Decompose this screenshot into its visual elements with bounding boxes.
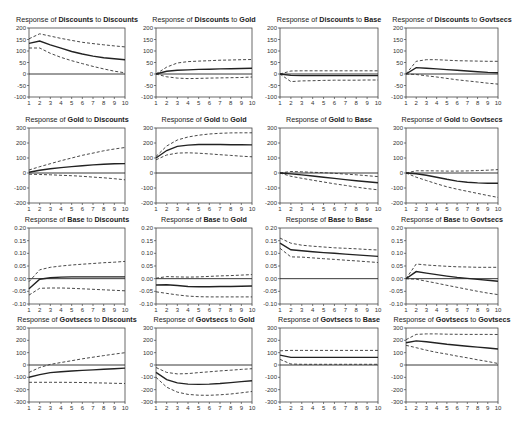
- x-tick-label: 7: [344, 100, 348, 106]
- upper-confidence-band: [406, 334, 498, 340]
- y-tick-label: 0.10: [391, 250, 403, 256]
- panel-title: Response of Base to Govtsecs: [401, 215, 503, 224]
- title-prefix: Response of: [401, 115, 443, 124]
- y-tick-label: 200: [16, 140, 27, 146]
- x-tick-label: 3: [176, 100, 180, 106]
- y-tick-label: 0.00: [141, 276, 153, 282]
- x-tick-label: 9: [113, 307, 117, 313]
- x-tick-label: 5: [70, 405, 74, 411]
- x-tick-label: 5: [445, 307, 449, 313]
- x-tick-label: 4: [186, 206, 190, 212]
- x-tick-label: 7: [218, 206, 222, 212]
- title-mid: to: [220, 115, 230, 124]
- impulse-response-line: [29, 41, 125, 60]
- x-tick-label: 6: [208, 307, 212, 313]
- plot-frame: [406, 128, 498, 203]
- title-prefix: Response of: [161, 215, 203, 224]
- x-tick-label: 2: [38, 405, 42, 411]
- response-variable: Gold: [204, 115, 220, 124]
- x-tick-label: 4: [186, 100, 190, 106]
- lower-confidence-band: [156, 153, 252, 160]
- y-tick-label: -0.05: [12, 288, 26, 294]
- y-tick-label: -0.10: [263, 301, 277, 307]
- y-tick-label: 50: [146, 60, 153, 66]
- x-tick-label: 9: [113, 100, 117, 106]
- lower-confidence-band: [29, 288, 125, 295]
- irf-panel-govtsecs-to-base: Response of Govtsecs to Base3002001000-1…: [265, 315, 382, 411]
- response-variable: Govtsecs: [60, 315, 92, 324]
- impulse-response-line: [156, 285, 252, 287]
- y-tick-label: 0: [23, 71, 27, 77]
- title-mid: to: [354, 15, 364, 24]
- x-tick-label: 5: [322, 206, 326, 212]
- y-tick-label: 200: [393, 25, 404, 31]
- x-tick-label: 10: [249, 100, 256, 106]
- y-tick-label: 100: [267, 48, 278, 54]
- y-tick-label: 0.05: [391, 263, 403, 269]
- response-variable: Govtsecs: [196, 315, 228, 324]
- x-tick-label: 9: [240, 100, 244, 106]
- title-mid: to: [345, 115, 355, 124]
- y-tick-label: 0.00: [391, 276, 403, 282]
- y-tick-label: 300: [16, 125, 27, 131]
- x-tick-label: 10: [249, 307, 256, 313]
- x-tick-label: 10: [375, 206, 382, 212]
- panel-title: Response of Govtsecs to Base: [278, 315, 380, 324]
- shock-variable: Gold: [239, 15, 255, 24]
- irf-panel-base-to-base: Response of Base to Base0.200.150.100.05…: [263, 215, 382, 313]
- x-tick-label: 3: [49, 206, 53, 212]
- y-tick-label: 100: [16, 155, 27, 161]
- lower-confidence-band: [156, 292, 252, 297]
- x-tick-label: 6: [81, 405, 85, 411]
- title-prefix: Response of: [286, 115, 328, 124]
- irf-panel-gold-to-discounts: Response of Gold to Discounts3002001000-…: [14, 115, 129, 212]
- x-tick-label: 3: [300, 405, 304, 411]
- lower-confidence-band: [280, 359, 378, 364]
- title-mid: to: [353, 315, 363, 324]
- y-tick-label: 0: [23, 170, 27, 176]
- title-prefix: Response of: [153, 315, 195, 324]
- y-tick-label: -300: [265, 399, 278, 405]
- shock-variable: Govtsecs: [479, 15, 511, 24]
- x-tick-label: 4: [59, 405, 63, 411]
- x-tick-label: 9: [365, 307, 369, 313]
- y-tick-label: -100: [265, 374, 278, 380]
- x-tick-label: 4: [59, 307, 63, 313]
- x-tick-label: 6: [333, 100, 337, 106]
- title-prefix: Response of: [401, 215, 443, 224]
- title-mid: to: [345, 215, 355, 224]
- irf-panel-base-to-discounts: Response of Base to Discounts0.200.150.1…: [12, 215, 129, 313]
- x-tick-label: 6: [455, 100, 459, 106]
- title-mid: to: [84, 115, 94, 124]
- y-tick-label: -200: [265, 200, 278, 206]
- x-tick-label: 2: [289, 405, 293, 411]
- x-tick-label: 8: [476, 206, 480, 212]
- x-tick-label: 8: [476, 307, 480, 313]
- y-tick-label: 0: [150, 362, 154, 368]
- impulse-response-line: [280, 243, 378, 256]
- lower-confidence-band: [29, 382, 125, 383]
- x-tick-label: 4: [435, 206, 439, 212]
- response-variable: Gold: [328, 115, 344, 124]
- x-tick-label: 1: [404, 405, 408, 411]
- y-tick-label: 100: [393, 155, 404, 161]
- response-variable: Discounts: [58, 15, 93, 24]
- upper-confidence-band: [29, 34, 125, 47]
- y-tick-label: 0.00: [265, 276, 277, 282]
- y-tick-label: -200: [141, 387, 154, 393]
- x-tick-label: 2: [165, 405, 169, 411]
- y-tick-label: 0: [150, 170, 154, 176]
- irf-panel-discounts-to-govtsecs: Response of Discounts to Govtsecs2001501…: [391, 15, 512, 106]
- y-tick-label: 150: [267, 37, 278, 43]
- plot-frame: [156, 28, 252, 97]
- plot-frame: [156, 228, 252, 304]
- x-tick-label: 1: [27, 100, 31, 106]
- title-mid: to: [84, 215, 94, 224]
- lower-confidence-band: [29, 48, 125, 73]
- y-tick-label: 0.05: [14, 263, 26, 269]
- x-tick-label: 2: [165, 307, 169, 313]
- title-prefix: Response of: [16, 15, 58, 24]
- x-tick-label: 9: [486, 206, 490, 212]
- y-tick-label: -100: [141, 94, 154, 100]
- x-tick-label: 5: [197, 307, 201, 313]
